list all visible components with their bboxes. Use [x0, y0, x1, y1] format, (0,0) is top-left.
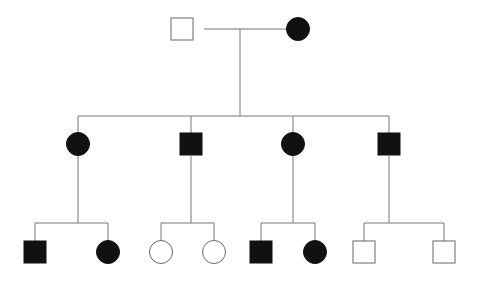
unaffected-male-III-7 — [353, 241, 375, 263]
affected-female-II-1 — [67, 133, 90, 156]
affected-female-III-6 — [304, 241, 327, 264]
unaffected-male-I-1 — [171, 18, 193, 40]
unaffected-female-III-3 — [150, 241, 173, 264]
affected-female-I-2 — [287, 18, 310, 41]
affected-male-III-5 — [250, 241, 272, 263]
affected-male-II-4 — [378, 133, 400, 155]
affected-male-II-2 — [180, 133, 202, 155]
affected-female-II-3 — [282, 133, 305, 156]
pedigree-diagram — [0, 0, 478, 284]
affected-male-III-1 — [24, 241, 46, 263]
unaffected-male-III-8 — [433, 241, 455, 263]
affected-female-III-2 — [97, 241, 120, 264]
unaffected-female-III-4 — [203, 241, 226, 264]
